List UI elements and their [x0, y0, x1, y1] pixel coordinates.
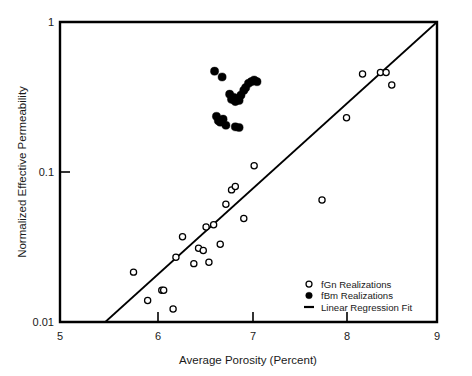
data-point — [161, 287, 167, 293]
data-point — [343, 115, 349, 121]
legend-label-fbm: fBm Realizations — [321, 290, 393, 301]
x-tick-label: 8 — [344, 330, 350, 342]
series-fgn-points — [130, 69, 394, 312]
data-point — [200, 247, 206, 253]
y-axis-tick-labels: 1 0.1 0.01 — [33, 16, 54, 328]
legend-label-fgn: fGn Realizations — [321, 279, 392, 290]
data-point — [145, 297, 151, 303]
data-point — [223, 201, 229, 207]
data-point — [191, 261, 197, 267]
x-axis-tick-labels: 5 6 7 8 9 — [57, 330, 440, 342]
data-point — [222, 121, 230, 129]
x-tick-label: 5 — [57, 330, 63, 342]
data-point — [383, 69, 389, 75]
data-point — [241, 215, 247, 221]
y-tick-label: 1 — [48, 16, 54, 28]
legend-marker-filled-circle-icon — [306, 292, 313, 299]
figure-container: 1 0.1 0.01 5 6 7 8 9 Average Porosity (P… — [0, 0, 472, 376]
data-point — [211, 222, 217, 228]
data-point — [170, 306, 176, 312]
data-point — [203, 224, 209, 230]
data-point — [389, 82, 395, 88]
data-point — [232, 183, 238, 189]
data-point — [179, 234, 185, 240]
y-tick-label: 0.01 — [33, 316, 54, 328]
data-point — [217, 241, 223, 247]
y-axis-ticks — [60, 22, 70, 322]
x-tick-label: 9 — [434, 330, 440, 342]
data-point — [218, 73, 226, 81]
series-fbm-points — [210, 67, 261, 132]
y-tick-label: 0.1 — [39, 166, 54, 178]
legend-label-fit: Linear Regression Fit — [321, 302, 413, 313]
scatter-chart: 1 0.1 0.01 5 6 7 8 9 Average Porosity (P… — [0, 0, 472, 376]
x-tick-label: 6 — [155, 330, 161, 342]
data-point — [173, 254, 179, 260]
data-point — [359, 71, 365, 77]
data-point — [130, 269, 136, 275]
plot-frame — [60, 22, 437, 322]
data-point — [251, 163, 257, 169]
regression-fit-line — [105, 22, 437, 322]
legend-marker-open-circle-icon — [306, 281, 312, 287]
data-point — [253, 78, 261, 86]
data-point — [235, 123, 243, 131]
x-axis-ticks — [158, 312, 347, 322]
data-point — [206, 259, 212, 265]
chart-legend: fGn Realizations fBm Realizations Linear… — [304, 279, 413, 313]
x-axis-title: Average Porosity (Percent) — [179, 354, 317, 366]
data-point — [210, 67, 218, 75]
y-axis-title: Normalized Effective Permeability — [16, 86, 28, 258]
data-point — [319, 197, 325, 203]
x-tick-label: 7 — [250, 330, 256, 342]
